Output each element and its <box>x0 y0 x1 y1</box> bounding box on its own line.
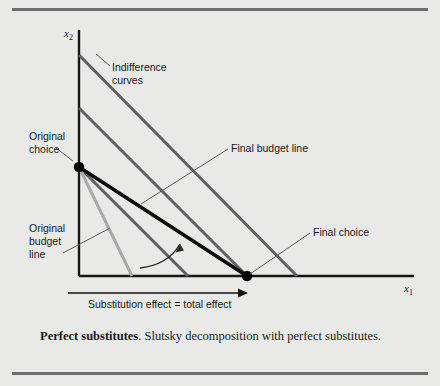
leader-indifference-curves <box>96 54 110 66</box>
label-original-budget-line2: budget <box>29 235 61 247</box>
label-final-choice: Final choice <box>313 226 369 238</box>
label-original-choice-line1: Original <box>29 130 65 142</box>
leader-final-budget-line <box>141 149 228 204</box>
substitution-effect-arrow <box>68 289 248 298</box>
figure-container: x2 x1 Indifference curves <box>0 0 440 386</box>
leader-lines <box>56 54 310 274</box>
label-substitution-effect: Substitution effect = total effect <box>88 298 232 310</box>
leader-original-budget-line <box>63 228 110 253</box>
label-original-choice-line2: choice <box>29 143 60 155</box>
x-axis-label: x1 <box>403 282 413 297</box>
caption-text: . Slutsky decomposition with perfect sub… <box>138 329 381 343</box>
indifference-curve-inner <box>79 167 188 276</box>
label-final-budget-line: Final budget line <box>231 142 308 154</box>
caption-bold-title: Perfect substitutes <box>40 329 138 343</box>
y-axis-label: x2 <box>63 27 73 42</box>
figure-caption: Perfect substitutes. Slutsky decompositi… <box>40 328 412 344</box>
label-original-budget-line3: line <box>29 248 46 260</box>
label-indifference-curves-line1: Indifference <box>112 61 167 73</box>
original-choice-point <box>74 162 84 172</box>
final-choice-point <box>242 271 252 281</box>
label-original-budget-line1: Original <box>29 222 65 234</box>
label-indifference-curves-line2: curves <box>112 74 143 86</box>
indifference-curve-outer <box>79 55 297 276</box>
indifference-curves <box>79 55 297 276</box>
